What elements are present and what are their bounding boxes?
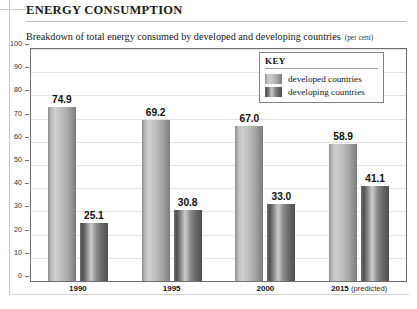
legend-row: developing countries [265,85,378,98]
y-axis-tick-label: 100 [10,40,22,48]
y-axis-tick-mark [25,276,29,277]
y-axis-tick-label: 50 [14,156,22,164]
x-axis-tick-label: 2000 [256,284,274,293]
bar-developed: 69.2 [142,120,170,281]
bar-value-label: 41.1 [365,173,385,184]
y-axis-tick-label: 30 [14,202,22,210]
bar-value-label: 74.9 [52,94,72,105]
bar-value-label: 33.0 [271,191,291,202]
y-axis-tick-label: 80 [14,86,22,94]
legend-label: developed countries [288,74,362,84]
y-axis-tick-label: 60 [14,133,22,141]
page-title: ENERGY CONSUMPTION [26,2,408,18]
chart-header: ENERGY CONSUMPTION Breakdown of total en… [26,2,408,44]
x-axis: 1990199520002015 (predicted) [31,284,406,298]
y-axis-tick-mark [25,253,29,254]
legend-key-box: KEY developed countriesdeveloping countr… [259,52,384,103]
bar-value-label: 67.0 [239,113,259,124]
y-axis-tick-label: 20 [14,226,22,234]
bar-group: 69.230.8 [142,49,202,281]
legend-rows: developed countriesdeveloping countries [265,72,378,98]
y-axis-tick-label: 70 [14,110,22,118]
bar-value-label: 58.9 [333,131,353,142]
x-axis-tick-label: 1990 [69,284,87,293]
legend-row: developed countries [265,72,378,85]
y-axis-tick-mark [25,206,29,207]
bar-developed: 67.0 [235,126,263,281]
y-axis: 0102030405060708090100 [0,44,30,283]
y-axis-tick-mark [25,90,29,91]
bar-developing: 25.1 [80,223,108,281]
y-axis-tick-mark [25,183,29,184]
x-axis-tick-label: 2015 (predicted) [331,284,387,293]
bar-developing: 33.0 [267,204,295,281]
y-axis-tick-mark [25,44,29,45]
legend-title: KEY [265,56,378,66]
y-axis-tick-mark [25,160,29,161]
bar-value-label: 30.8 [178,197,198,208]
y-axis-tick-label: 0 [18,272,22,280]
dark-gradient-bar-swatch [265,87,282,97]
bar-developed: 58.9 [329,144,357,281]
bar-value-label: 25.1 [84,210,104,221]
y-axis-tick-mark [25,67,29,68]
title-divider [26,21,407,22]
legend-label: developing countries [288,87,365,97]
y-axis-tick-label: 10 [14,249,22,257]
bar-value-label: 69.2 [146,107,166,118]
chart-subtitle-unit: (per cent) [345,33,374,42]
bar-developing: 41.1 [361,186,389,281]
y-axis-tick-mark [25,137,29,138]
bar-developed: 74.9 [48,107,76,281]
x-axis-tick-label: 1995 [163,284,181,293]
y-axis-tick-mark [25,230,29,231]
y-axis-tick-label: 90 [14,63,22,71]
legend-divider [265,68,378,69]
chart-subtitle: Breakdown of total energy consumed by de… [26,31,341,42]
light-gradient-bar-swatch [265,74,282,84]
y-axis-tick-label: 40 [14,179,22,187]
chart-subtitle-row: Breakdown of total energy consumed by de… [26,26,408,44]
y-axis-tick-mark [25,114,29,115]
page-frame-top-rule [0,9,26,10]
bar-group: 74.925.1 [48,49,108,281]
bar-developing: 30.8 [174,210,202,281]
